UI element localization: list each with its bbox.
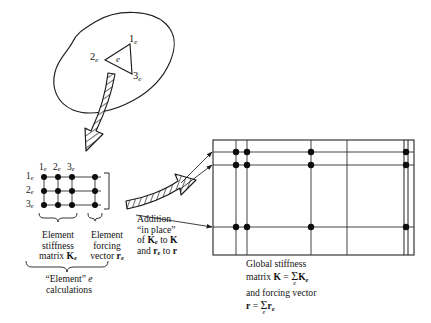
element-matrix-row-header-2: 2e xyxy=(26,185,34,196)
sigma-over-e-icon: Σe xyxy=(291,270,298,287)
global-matrix-caption: Global stiffness matrix K = ΣeKe and for… xyxy=(246,259,316,315)
element-forcing-caption-line-3: vector re xyxy=(76,251,138,262)
element-matrix-col-header-3: 3e xyxy=(67,162,75,173)
global-matrix-frame xyxy=(213,140,414,255)
global-matrix-contribution-dots xyxy=(233,149,409,230)
element-matrix-right-bracket xyxy=(104,173,109,209)
element-forcing-brace xyxy=(88,213,102,221)
element-node-3-label: 3e xyxy=(133,70,141,83)
fem-assembly-diagram: 1e 2e 3e e 1e 2e 3e 1e 2e 3e Element sti… xyxy=(0,0,431,323)
addition-in-place-arrow xyxy=(126,174,196,209)
element-matrix-col-header-1: 1e xyxy=(39,162,47,173)
element-node-1-label: 1e xyxy=(129,33,137,46)
element-matrix-row-header-1: 1e xyxy=(26,171,34,182)
global-caption-line-2: matrix K = ΣeKe xyxy=(246,270,316,287)
element-calculations-line-2: calculations xyxy=(36,285,102,296)
element-stiffness-brace xyxy=(39,213,77,222)
global-caption-line-1: Global stiffness xyxy=(246,259,316,270)
global-caption-line-3: and forcing vector xyxy=(246,288,316,299)
addition-caption-line-4: and re to r xyxy=(137,246,178,257)
element-calculations-brace xyxy=(26,261,108,272)
sigma-over-e-icon-2: Σe xyxy=(260,299,267,316)
element-calculations-caption: “Element” e calculations xyxy=(36,274,102,295)
element-matrix-grid xyxy=(41,174,101,208)
global-caption-line-4: r = Σere xyxy=(246,299,316,316)
addition-in-place-caption: Addition “in place” of Ke to K and re to… xyxy=(137,214,178,257)
element-interior-label: e xyxy=(116,54,120,64)
element-forcing-caption: Element forcing vector re xyxy=(76,230,138,262)
element-matrix-row-header-3: 3e xyxy=(26,199,34,210)
element-node-2-label: 2e xyxy=(90,51,98,64)
continuum-domain-outline xyxy=(54,12,175,113)
element-extraction-arrow xyxy=(85,73,115,151)
element-matrix-col-header-2: 2e xyxy=(53,162,61,173)
